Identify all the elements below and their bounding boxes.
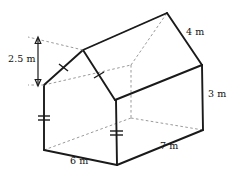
dimension-label-wall-height: 3 m xyxy=(208,89,226,99)
dimension-label-roof-slope: 4 m xyxy=(186,27,204,37)
tick-marks-group xyxy=(38,64,123,135)
roof-height-dimension-group xyxy=(28,37,83,86)
edge-center-wall-vertical xyxy=(116,100,117,165)
tick-roof-right-slope xyxy=(94,72,104,78)
visible-edges-group xyxy=(44,13,203,165)
hidden-edge-back-to-bottom-right xyxy=(131,118,203,130)
edge-right-wall-vertical xyxy=(202,65,203,130)
edge-far-roof-slope xyxy=(167,13,202,65)
hidden-edge-left-eave-to-back-eave xyxy=(44,65,131,85)
dimension-label-prism-length: 7 m xyxy=(160,141,178,151)
hidden-edge-bottom-left-to-back xyxy=(44,118,131,150)
edge-side-roof-eave xyxy=(115,65,202,100)
diagram-canvas: 2.5 m 4 m 3 m 6 m 7 m xyxy=(0,0,230,175)
hidden-edges-group xyxy=(44,13,203,150)
dimension-label-front-width: 6 m xyxy=(70,156,88,166)
dimension-label-roof-height: 2.5 m xyxy=(8,54,36,64)
